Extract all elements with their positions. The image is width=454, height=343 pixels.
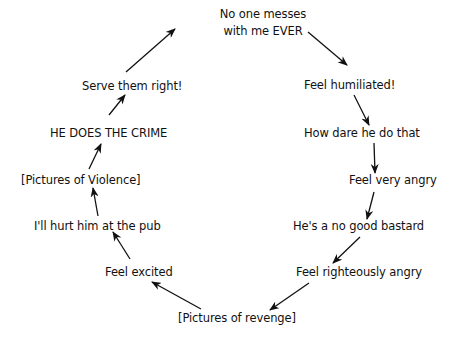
node-righteously-angry: Feel righteously angry <box>296 265 422 279</box>
arrow-n8-n9 <box>93 188 98 216</box>
node-line-1: No one messes <box>203 7 323 21</box>
node-pictures-of-violence: [Pictures of Violence] <box>21 173 141 187</box>
arrow-n6-n7 <box>152 282 201 309</box>
node-how-dare: How dare he do that <box>304 126 420 140</box>
arrow-n5-n6 <box>270 283 309 310</box>
arrow-n4-n5 <box>333 237 360 263</box>
arrow-n9-n10 <box>89 144 101 169</box>
node-hurt-him-at-pub: I'll hurt him at the pub <box>34 219 161 233</box>
node-does-the-crime: HE DOES THE CRIME <box>50 126 167 140</box>
arrow-n2-n3 <box>374 143 375 173</box>
node-feel-humiliated: Feel humiliated! <box>304 78 395 92</box>
arrow-n10-n11 <box>109 95 125 115</box>
cycle-arrows <box>0 0 454 343</box>
arrow-n1-n2 <box>354 95 369 125</box>
node-feel-very-angry: Feel very angry <box>349 173 437 187</box>
node-serve-them-right: Serve them right! <box>82 79 182 93</box>
node-line-2: with me EVER <box>203 24 323 38</box>
arrow-n7-n8 <box>113 232 130 259</box>
node-pictures-of-revenge: [Pictures of revenge] <box>178 311 296 325</box>
node-no-one-messes: No one messes with me EVER <box>203 7 323 38</box>
arrow-n3-n4 <box>367 192 374 219</box>
node-no-good-bastard: He's a no good bastard <box>293 219 424 233</box>
node-feel-excited: Feel excited <box>105 265 173 279</box>
arrow-n11-n0 <box>126 29 175 72</box>
